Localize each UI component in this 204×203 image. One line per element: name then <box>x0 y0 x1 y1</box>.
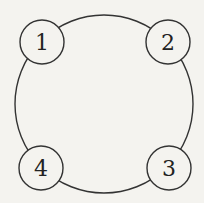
node-1: 1 <box>20 20 64 64</box>
node-2: 2 <box>146 20 190 64</box>
node-label-4: 4 <box>34 156 48 181</box>
node-3: 3 <box>147 146 191 190</box>
node-4: 4 <box>19 146 63 190</box>
node-label-1: 1 <box>35 30 49 55</box>
node-label-2: 2 <box>161 30 175 55</box>
ring-diagram: 1 2 3 4 <box>0 0 204 203</box>
node-label-3: 3 <box>162 156 176 181</box>
